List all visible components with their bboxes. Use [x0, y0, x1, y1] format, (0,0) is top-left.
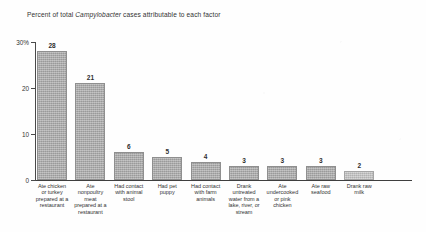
bar	[114, 152, 144, 180]
bar-value-label: 28	[37, 42, 67, 49]
x-axis-category-label-line: chicken	[263, 202, 301, 208]
x-axis-category-label-line: restaurant	[33, 202, 71, 208]
x-axis-category-label: Ate rawseafood	[302, 183, 340, 196]
x-axis-category-label-line: animals	[187, 196, 225, 202]
y-axis-tick	[31, 180, 36, 181]
bar	[37, 51, 67, 180]
bar-value-label: 2	[344, 162, 374, 169]
bar	[306, 166, 336, 180]
plot-area: 0102030% 28216543332 Ate chickenor turke…	[0, 0, 426, 232]
bar	[75, 83, 105, 180]
x-axis-category-label: Drank rawmilk	[340, 183, 378, 196]
bar	[344, 171, 374, 180]
bar	[191, 162, 221, 180]
y-axis-tick-label: 20	[22, 85, 29, 92]
x-axis-category-label: Drankuntreatedwater from alake, river, o…	[225, 183, 263, 215]
x-axis-category-label: Ateundercookedor pinkchicken	[263, 183, 301, 209]
x-axis-line	[35, 180, 412, 181]
x-axis-category-label-line: stool	[110, 196, 148, 202]
x-axis-category-label-line: restaurant	[71, 209, 109, 215]
y-axis-tick	[31, 42, 36, 43]
x-axis-category-label-line: lake, river, or	[225, 202, 263, 208]
bar-value-label: 3	[267, 157, 297, 164]
bar	[229, 166, 259, 180]
x-axis-category-label-line: milk	[340, 189, 378, 195]
bar	[152, 157, 182, 180]
x-axis-category-label: Atenonpoultrymeatprepared at arestaurant	[71, 183, 109, 215]
x-axis-category-label-line: prepared at a	[71, 202, 109, 208]
bar-value-label: 6	[114, 143, 144, 150]
bar-value-label: 3	[306, 157, 336, 164]
y-axis-tick-label: 30%	[16, 39, 29, 46]
x-axis-category-label: Ate chickenor turkeyprepared at arestaur…	[33, 183, 71, 209]
x-axis-category-label-line: seafood	[302, 189, 340, 195]
x-axis-category-label: Had contactwith farmanimals	[187, 183, 225, 202]
y-axis-line	[35, 42, 36, 181]
y-axis-tick-label: 0	[25, 177, 29, 184]
bar-value-label: 5	[152, 148, 182, 155]
y-axis-tick	[31, 88, 36, 89]
x-axis-category-label: Had petpuppy	[148, 183, 186, 196]
x-axis-category-label-line: with animal	[110, 189, 148, 195]
bar-value-label: 4	[191, 153, 221, 160]
x-axis-category-label-line: undercooked	[263, 189, 301, 195]
x-axis-category-label-line: puppy	[148, 189, 186, 195]
chart-page: Percent of total Campylobacter cases att…	[0, 0, 426, 232]
x-axis-category-label-line: stream	[225, 209, 263, 215]
y-axis-tick-label: 10	[22, 131, 29, 138]
bar	[267, 166, 297, 180]
bar-value-label: 21	[75, 74, 105, 81]
x-axis-category-label: Had contactwith animalstool	[110, 183, 148, 202]
bar-value-label: 3	[229, 157, 259, 164]
y-axis-tick	[31, 134, 36, 135]
